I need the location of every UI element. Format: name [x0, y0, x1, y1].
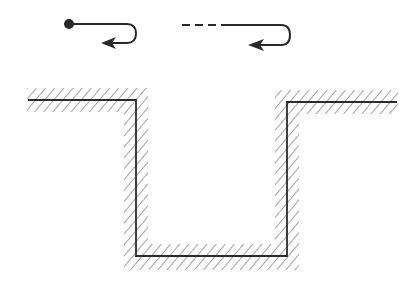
trench-profile-line [28, 100, 397, 256]
diagram-canvas [0, 0, 416, 284]
legend-item-dashed-path [182, 25, 290, 51]
legend-item-solid-path [64, 19, 136, 49]
trench-cross-section [27, 88, 398, 270]
hatched-ground-band [27, 88, 398, 270]
solid-hook-arrow-icon [69, 24, 136, 43]
